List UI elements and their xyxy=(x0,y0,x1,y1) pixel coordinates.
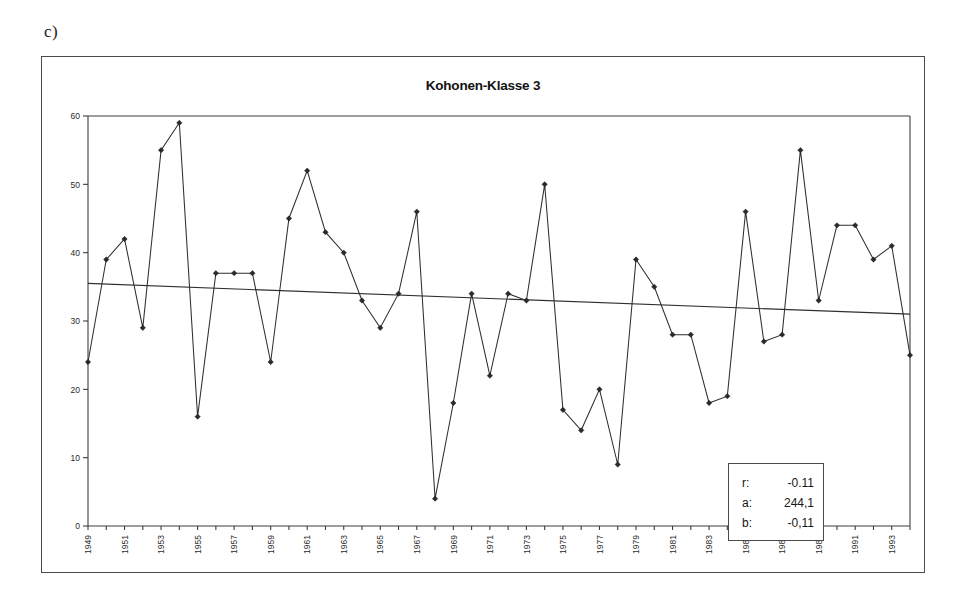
x-tick-label: 1977 xyxy=(595,535,605,554)
data-point-marker xyxy=(85,359,90,364)
y-tick-label: 10 xyxy=(71,453,81,463)
x-tick-label: 1981 xyxy=(668,535,678,554)
data-point-marker xyxy=(487,373,492,378)
data-point-marker xyxy=(706,400,711,405)
stats-row-b: b: -0,11 xyxy=(729,513,823,533)
data-point-marker xyxy=(597,387,602,392)
data-point-marker xyxy=(432,496,437,501)
stats-row-a: a: 244,1 xyxy=(729,493,823,513)
x-tick-label: 1955 xyxy=(193,535,203,554)
data-point-marker xyxy=(505,291,510,296)
y-tick-label: 30 xyxy=(71,316,81,326)
data-point-marker xyxy=(615,462,620,467)
stats-value-a: 244,1 xyxy=(762,493,814,513)
x-tick-label: 1979 xyxy=(631,535,641,554)
y-tick-label: 20 xyxy=(71,385,81,395)
data-point-marker xyxy=(451,400,456,405)
stats-key-a: a: xyxy=(742,493,762,513)
data-point-marker xyxy=(195,414,200,419)
x-tick-label: 1971 xyxy=(485,535,495,554)
x-tick-label: 1983 xyxy=(704,535,714,554)
x-tick-label: 1993 xyxy=(887,535,897,554)
data-point-marker xyxy=(231,270,236,275)
x-tick-label: 1963 xyxy=(339,535,349,554)
data-point-marker xyxy=(743,209,748,214)
data-point-marker xyxy=(414,209,419,214)
x-tick-label: 1957 xyxy=(229,535,239,554)
stats-row-r: r: -0.11 xyxy=(729,473,823,493)
data-point-marker xyxy=(140,325,145,330)
data-point-marker xyxy=(268,359,273,364)
data-point-marker xyxy=(286,216,291,221)
stats-key-b: b: xyxy=(742,513,762,533)
statistics-box: r: -0.11 a: 244,1 b: -0,11 xyxy=(728,463,824,541)
x-tick-label: 1969 xyxy=(449,535,459,554)
data-point-marker xyxy=(779,332,784,337)
data-point-marker xyxy=(816,298,821,303)
data-point-marker xyxy=(542,182,547,187)
data-point-marker xyxy=(907,352,912,357)
chart-frame: Kohonen-Klasse 3 01020304050601949195119… xyxy=(41,56,925,573)
data-point-marker xyxy=(670,332,675,337)
x-tick-label: 1951 xyxy=(120,535,130,554)
data-point-marker xyxy=(798,147,803,152)
data-point-marker xyxy=(652,284,657,289)
data-point-marker xyxy=(378,325,383,330)
x-tick-label: 1991 xyxy=(850,535,860,554)
x-tick-label: 1953 xyxy=(156,535,166,554)
stats-value-b: -0,11 xyxy=(762,513,814,533)
data-point-marker xyxy=(761,339,766,344)
stats-key-r: r: xyxy=(742,473,762,493)
data-point-marker xyxy=(688,332,693,337)
data-point-marker xyxy=(725,393,730,398)
y-tick-label: 40 xyxy=(71,248,81,258)
y-tick-label: 50 xyxy=(71,180,81,190)
x-tick-label: 1965 xyxy=(375,535,385,554)
data-point-marker xyxy=(213,270,218,275)
y-tick-label: 60 xyxy=(71,111,81,121)
x-tick-label: 1949 xyxy=(83,535,93,554)
data-series-line xyxy=(88,123,910,499)
data-point-marker xyxy=(250,270,255,275)
x-tick-label: 1961 xyxy=(302,535,312,554)
stats-value-r: -0.11 xyxy=(762,473,814,493)
y-tick-label: 0 xyxy=(75,521,80,531)
x-tick-label: 1967 xyxy=(412,535,422,554)
data-point-marker xyxy=(524,298,529,303)
x-tick-label: 1959 xyxy=(266,535,276,554)
data-point-marker xyxy=(834,223,839,228)
x-tick-label: 1975 xyxy=(558,535,568,554)
figure-label: c) xyxy=(44,22,58,42)
x-tick-label: 1973 xyxy=(522,535,532,554)
data-point-marker xyxy=(853,223,858,228)
data-point-marker xyxy=(469,291,474,296)
data-point-marker xyxy=(305,168,310,173)
